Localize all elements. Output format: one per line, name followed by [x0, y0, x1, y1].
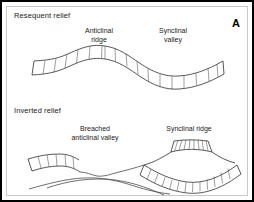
remnant-left-end	[28, 159, 32, 171]
breached-valley-floor	[80, 165, 144, 176]
foreground-ground-line	[47, 179, 164, 195]
synclinal-ridge-cap-top	[174, 140, 208, 141]
resequent-relief-cross-section	[7, 7, 249, 102]
panel-inverted-relief: Inverted relief Breached anticlinal vall…	[7, 102, 249, 197]
synclinal-ridge-cap-right-end	[208, 141, 212, 152]
syncline-bed-upper-surface	[144, 165, 237, 182]
synclinal-ridge-right-slope	[212, 152, 235, 163]
lower-stratum-surface	[32, 58, 224, 89]
syncline-bed-right-end	[237, 165, 241, 174]
bed-right-end	[223, 61, 224, 74]
syncline-bed-lower-surface	[140, 174, 241, 193]
synclinal-ridge-cap-base	[171, 149, 212, 152]
syncline-bed-tick-marks	[147, 169, 230, 192]
inverted-relief-cross-section	[7, 102, 249, 197]
upper-stratum-surface	[34, 45, 223, 76]
bed-left-end	[32, 61, 34, 75]
remnant-upper-surface-left	[28, 154, 79, 160]
synclinal-ridge-left-slope	[144, 152, 171, 165]
synclinal-ridge-cap-left-end	[171, 141, 174, 152]
panel-resequent-relief: Resequent relief A Anticlinal ridge Sync…	[7, 7, 249, 102]
figure-frame: Resequent relief A Anticlinal ridge Sync…	[0, 0, 254, 202]
figure-inner-border: Resequent relief A Anticlinal ridge Sync…	[6, 6, 248, 196]
bed-tick-marks-syncline	[115, 48, 218, 89]
bed-tick-marks-anticline	[43, 46, 102, 75]
remnant-lower-surface-left	[32, 166, 80, 172]
